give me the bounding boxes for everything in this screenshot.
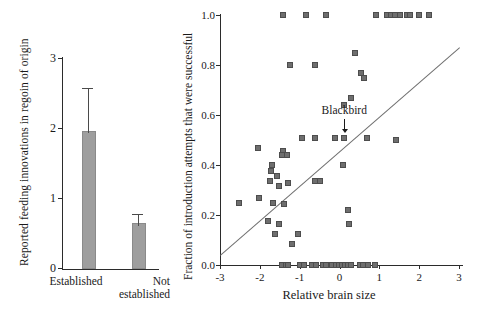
- scatter-y-tick-label-5: 1.0: [201, 10, 215, 21]
- scatter-x-tick-5: [419, 265, 420, 269]
- scatter-point: [373, 12, 379, 18]
- scatter-annotation-arrowhead-blackbird: [342, 129, 348, 133]
- scatter-point: [317, 178, 323, 184]
- scatter-point: [348, 262, 354, 268]
- scatter-point: [301, 262, 307, 268]
- scatter-point: [287, 62, 293, 68]
- scatter-y-axis-title: Fraction of introduction attempts that w…: [182, 33, 194, 280]
- scatter-point: [341, 135, 347, 141]
- bar-y-tick-2: [58, 128, 62, 129]
- scatter-y-tick-5: [216, 15, 220, 16]
- scatter-y-tick-label-0: 0.0: [201, 260, 215, 271]
- scatter-point: [256, 195, 262, 201]
- bar-y-tick-0: [58, 268, 62, 269]
- scatter-point: [265, 218, 271, 224]
- bar-y-tick-label-1: 1: [50, 192, 56, 204]
- scatter-point: [313, 262, 319, 268]
- scatter-point: [340, 162, 346, 168]
- scatter-plot-area: 0.00.20.40.60.81.0-3-2-10123 Blackbird: [220, 14, 459, 266]
- scatter-point: [416, 12, 422, 18]
- bar-category-label-not-established-line1: Not: [153, 275, 170, 287]
- scatter-point: [397, 12, 403, 18]
- scatter-x-tick-1: [260, 265, 261, 269]
- scatter-point: [270, 200, 276, 206]
- scatter-point: [332, 135, 338, 141]
- scatter-point: [299, 135, 305, 141]
- scatter-x-tick-label-5: 2: [416, 272, 422, 283]
- scatter-x-tick-label-6: 3: [456, 272, 462, 283]
- bar-category-label-established: Established: [40, 275, 112, 288]
- scatter-point: [393, 137, 399, 143]
- scatter-x-tick-label-3: 0: [337, 272, 343, 283]
- scatter-point: [323, 12, 329, 18]
- scatter-point: [407, 12, 413, 18]
- scatter-point: [289, 241, 295, 247]
- scatter-point: [364, 135, 370, 141]
- scatter-plot-panel: Fraction of introduction attempts that w…: [172, 0, 486, 313]
- scatter-point: [284, 152, 290, 158]
- scatter-point: [323, 262, 329, 268]
- scatter-y-tick-label-4: 0.8: [201, 60, 215, 71]
- error-bar-not-established-cap: [132, 214, 143, 215]
- scatter-annotation-label-blackbird: Blackbird: [322, 104, 367, 116]
- scatter-point: [280, 12, 286, 18]
- scatter-point: [303, 12, 309, 18]
- bar-chart-plot-area: 0 1 2 3: [62, 57, 154, 270]
- bar-not-established: [132, 223, 146, 269]
- bar-chart-y-axis-title: Reported feeding innovations in regoin o…: [18, 38, 30, 266]
- scatter-point: [345, 207, 351, 213]
- scatter-point: [365, 262, 371, 268]
- scatter-x-tick-0: [220, 265, 221, 269]
- bar-category-label-not-established: Not established: [112, 275, 170, 301]
- scatter-x-tick-4: [379, 265, 380, 269]
- bar-category-label-not-established-line2: established: [119, 288, 170, 300]
- error-bar-established-cap: [82, 88, 93, 89]
- scatter-point: [372, 262, 378, 268]
- scatter-point: [274, 173, 280, 179]
- bar-y-tick-1: [58, 198, 62, 199]
- scatter-regression-line: [220, 48, 460, 256]
- scatter-y-tick-2: [216, 165, 220, 166]
- scatter-point: [361, 75, 367, 81]
- scatter-x-axis-title: Relative brain size: [172, 288, 486, 303]
- scatter-y-tick-label-1: 0.2: [201, 210, 215, 221]
- scatter-point: [276, 183, 282, 189]
- scatter-point: [285, 262, 291, 268]
- scatter-point: [281, 201, 287, 207]
- error-bar-not-established-line: [138, 214, 139, 226]
- scatter-point: [269, 162, 275, 168]
- scatter-point: [312, 135, 318, 141]
- scatter-y-tick-3: [216, 115, 220, 116]
- scatter-point: [276, 221, 282, 227]
- scatter-point: [267, 178, 273, 184]
- bar-chart-panel: Reported feeding innovations in regoin o…: [0, 0, 172, 313]
- bar-y-tick-3: [58, 58, 62, 59]
- bar-y-tick-label-2: 2: [50, 122, 56, 134]
- scatter-point: [272, 231, 278, 237]
- bar-y-tick-label-3: 3: [50, 52, 56, 64]
- bar-chart-y-axis: [62, 57, 63, 270]
- scatter-x-tick-label-2: -1: [295, 272, 304, 283]
- bar-chart-x-axis: [62, 269, 159, 270]
- scatter-y-tick-label-3: 0.6: [201, 110, 215, 121]
- scatter-y-tick-4: [216, 65, 220, 66]
- scatter-y-tick-label-2: 0.4: [201, 160, 215, 171]
- scatter-y-axis: [220, 14, 221, 266]
- scatter-x-tick-6: [459, 265, 460, 269]
- figure-root: Reported feeding innovations in regoin o…: [0, 0, 486, 313]
- scatter-x-tick-label-4: 1: [377, 272, 383, 283]
- scatter-point: [295, 231, 301, 237]
- scatter-point: [426, 12, 432, 18]
- error-bar-established-line: [88, 88, 89, 133]
- bar-y-tick-label-0: 0: [50, 262, 56, 274]
- scatter-point: [352, 50, 358, 56]
- scatter-x-tick-label-0: -3: [215, 272, 224, 283]
- scatter-point: [312, 62, 318, 68]
- scatter-point: [236, 200, 242, 206]
- scatter-point: [348, 95, 354, 101]
- bar-established: [82, 131, 96, 269]
- scatter-x-tick-label-1: -2: [255, 272, 264, 283]
- scatter-y-tick-1: [216, 215, 220, 216]
- scatter-point: [285, 180, 291, 186]
- scatter-point: [255, 145, 261, 151]
